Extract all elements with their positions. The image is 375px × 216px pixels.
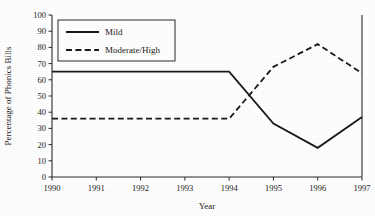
y-tick-label: 50 xyxy=(38,91,47,101)
y-tick-label: 10 xyxy=(38,156,47,166)
y-tick-label: 100 xyxy=(33,10,46,20)
x-tick-label: 1993 xyxy=(176,183,193,193)
y-tick-label: 40 xyxy=(38,107,47,117)
y-tick-label: 30 xyxy=(38,123,47,133)
x-axis-ticks: 19901991199219931994199519961997 xyxy=(44,177,371,193)
x-tick-label: 1992 xyxy=(132,183,149,193)
x-tick-label: 1991 xyxy=(88,183,105,193)
x-tick-label: 1995 xyxy=(265,183,282,193)
y-axis-ticks: 0102030405060708090100 xyxy=(33,10,52,182)
y-tick-label: 70 xyxy=(38,59,47,69)
chart-canvas: 0102030405060708090100 19901991199219931… xyxy=(0,0,375,216)
series-line-mild xyxy=(52,72,362,148)
line-chart: 0102030405060708090100 19901991199219931… xyxy=(0,0,375,216)
x-tick-label: 1996 xyxy=(309,183,326,193)
y-tick-label: 20 xyxy=(38,140,47,150)
x-axis-title: Year xyxy=(199,201,216,211)
x-tick-label: 1990 xyxy=(44,183,61,193)
x-tick-label: 1997 xyxy=(354,183,371,193)
legend-label-mild: Mild xyxy=(105,27,123,37)
legend-label-moderate-high: Moderate/High xyxy=(105,45,160,55)
y-tick-label: 80 xyxy=(38,42,47,52)
chart-legend: Mild Moderate/High xyxy=(58,20,175,61)
y-axis-title: Percentage of Phonics Bills xyxy=(3,46,13,146)
y-tick-label: 0 xyxy=(42,172,46,182)
y-tick-label: 90 xyxy=(38,26,47,36)
x-tick-label: 1994 xyxy=(221,183,239,193)
y-tick-label: 60 xyxy=(38,75,47,85)
